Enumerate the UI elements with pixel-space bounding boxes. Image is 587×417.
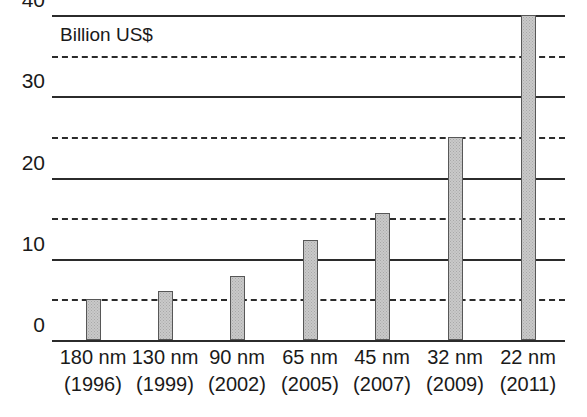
gridline-major-40	[52, 15, 565, 17]
gridline-minor-15	[52, 218, 565, 220]
y-axis-labels: 0 10 20 30 40	[0, 0, 45, 325]
y-tick-label-0: 0	[0, 314, 45, 335]
y-tick-label-10: 10	[0, 233, 45, 254]
bar-180nm	[86, 299, 101, 340]
x-tick-label-22nm: 22 nm (2011)	[480, 344, 576, 398]
bar-65nm	[303, 240, 318, 340]
y-tick-label-40: 40	[0, 0, 45, 10]
gridline-major-20	[52, 178, 565, 180]
bar-90nm	[230, 276, 245, 340]
y-tick-label-30: 30	[0, 70, 45, 91]
gridline-major-0	[52, 340, 565, 342]
gridline-minor-35	[52, 56, 565, 58]
bar-22nm	[521, 15, 536, 340]
gridline-minor-25	[52, 137, 565, 139]
bar-45nm	[375, 213, 390, 340]
bar-chart: 0 10 20 30 40 Billion US$ 180 nm (1996	[0, 0, 587, 417]
y-tick-label-20: 20	[0, 152, 45, 173]
chart-annotation: Billion US$	[60, 25, 153, 44]
plot-area: Billion US$	[52, 15, 565, 340]
x-axis-labels: 180 nm (1996) 130 nm (1999) 90 nm (2002)…	[52, 344, 565, 417]
bar-32nm	[448, 137, 463, 340]
gridline-major-30	[52, 96, 565, 98]
bar-130nm	[158, 291, 173, 340]
